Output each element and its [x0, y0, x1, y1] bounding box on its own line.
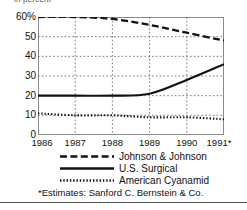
y-tick-label: 20 — [25, 91, 36, 101]
legend-item: American Cyanamid — [60, 175, 240, 186]
chart-footnote: *Estimates: Sanford C. Bernstein & Co. — [38, 187, 238, 198]
x-axis-labels: 198619871988198919901991* — [38, 137, 224, 151]
legend-swatch-solid-icon — [60, 163, 114, 174]
series-lines — [38, 17, 224, 119]
legend-label: American Cyanamid — [119, 175, 209, 186]
x-tick-label: 1987 — [65, 137, 86, 148]
y-tick-label: 60% — [16, 12, 36, 22]
legend-swatch-dashed-icon — [60, 151, 114, 162]
series-line — [38, 113, 224, 119]
chart-figure: in percent 0102030405060% 19861987198819… — [0, 0, 247, 210]
legend-label: U.S. Surgical — [119, 163, 177, 174]
x-tick-label: 1988 — [102, 137, 123, 148]
x-tick-label: 1990 — [176, 137, 197, 148]
bottom-divider — [0, 202, 247, 203]
plot-area — [38, 17, 224, 135]
clipped-axis-caption: in percent — [14, 0, 51, 4]
legend-label: Johnson & Johnson — [119, 151, 207, 162]
series-line — [38, 64, 224, 96]
x-tick-label: 1986 — [31, 137, 52, 148]
x-tick-label: 1989 — [139, 137, 160, 148]
chart-legend: Johnson & JohnsonU.S. SurgicalAmerican C… — [60, 151, 240, 187]
legend-swatch-dotted-icon — [60, 175, 114, 186]
legend-item: Johnson & Johnson — [60, 151, 240, 162]
y-tick-label: 40 — [25, 51, 36, 61]
legend-item: U.S. Surgical — [60, 163, 240, 174]
y-tick-label: 30 — [25, 71, 36, 81]
x-tick-label: 1991* — [207, 137, 232, 148]
y-axis-labels: 0102030405060% — [0, 17, 36, 135]
series-line — [38, 17, 224, 41]
plot-canvas — [38, 17, 224, 135]
y-tick-label: 50 — [25, 32, 36, 42]
y-tick-label: 10 — [25, 110, 36, 120]
